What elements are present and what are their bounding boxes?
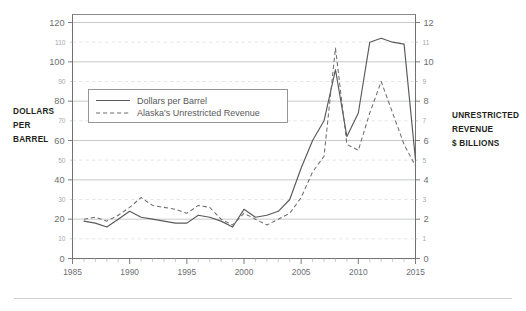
y-left-ticklabel-80: 80 xyxy=(54,96,64,106)
legend-label-dollars-per-barrel: Dollars per Barrel xyxy=(137,96,207,106)
series-dollars-per-barrel xyxy=(84,38,416,227)
y-right-ticklabel-6: 6 xyxy=(424,136,429,146)
chart-figure: 0204060801001201030507090110 02468101213… xyxy=(0,0,526,311)
chart-canvas: 0204060801001201030507090110 02468101213… xyxy=(0,0,526,311)
y-right-ticklabel-8: 8 xyxy=(424,96,429,106)
y-axis-right-ticks: 0246810121357911 xyxy=(416,18,434,264)
y-right-ticklabel-2: 2 xyxy=(424,214,429,224)
y-left-ticklabel-50: 50 xyxy=(58,157,66,164)
y-left-ticklabel-60: 60 xyxy=(54,136,64,146)
y-right-ticklabel-0: 0 xyxy=(424,254,429,264)
x-ticklabel-2015: 2015 xyxy=(406,267,425,277)
x-ticklabel-1995: 1995 xyxy=(178,267,197,277)
y-left-ticklabel-110: 110 xyxy=(55,39,66,46)
data-series-group xyxy=(84,38,416,227)
y-axis-right-title: UNRESTRICTED REVENUE $ BILLIONS xyxy=(452,111,519,148)
y-left-ticklabel-100: 100 xyxy=(49,57,64,67)
y-left-ticklabel-0: 0 xyxy=(59,254,64,264)
x-ticklabel-2010: 2010 xyxy=(349,267,368,277)
y-right-ticklabel-1: 1 xyxy=(423,235,427,242)
y-right-ticklabel-3: 3 xyxy=(423,196,427,203)
y-axis-left-title: DOLLARS PER BARREL xyxy=(13,107,55,144)
y-left-ticklabel-40: 40 xyxy=(54,175,64,185)
y-left-ticklabel-120: 120 xyxy=(49,18,64,28)
y-right-ticklabel-4: 4 xyxy=(424,175,429,185)
x-ticklabel-2005: 2005 xyxy=(292,267,311,277)
x-axis-ticks: 1985199019952000200520102015 xyxy=(63,259,425,277)
y-left-ticklabel-70: 70 xyxy=(58,117,66,124)
y-left-ticklabel-20: 20 xyxy=(54,214,64,224)
y-right-ticklabel-9: 9 xyxy=(423,78,427,85)
y-axis-right-title-line-3: $ BILLIONS xyxy=(452,139,500,148)
y-left-ticklabel-10: 10 xyxy=(58,235,66,242)
y-axis-right-title-line-2: REVENUE xyxy=(452,125,494,134)
y-right-ticklabel-12: 12 xyxy=(424,18,434,28)
y-left-ticklabel-30: 30 xyxy=(58,196,66,203)
y-right-ticklabel-7: 7 xyxy=(423,117,427,124)
y-left-ticklabel-90: 90 xyxy=(58,78,66,85)
y-axis-left-title-line-3: BARREL xyxy=(13,135,49,144)
y-right-ticklabel-5: 5 xyxy=(423,157,427,164)
y-axis-left-title-line-2: PER xyxy=(13,121,31,130)
y-right-ticklabel-11: 11 xyxy=(423,39,430,46)
series-alaska-unrestricted-revenue xyxy=(84,48,416,225)
chart-legend: Dollars per Barrel Alaska's Unrestricted… xyxy=(89,90,288,123)
y-right-ticklabel-10: 10 xyxy=(424,57,434,67)
plot-frame xyxy=(73,15,416,259)
legend-label-alaska-unrestricted-revenue: Alaska's Unrestricted Revenue xyxy=(137,108,260,118)
y-axis-right-title-line-1: UNRESTRICTED xyxy=(452,111,519,120)
x-ticklabel-2000: 2000 xyxy=(235,267,254,277)
y-axis-left-ticks: 0204060801001201030507090110 xyxy=(49,18,72,264)
x-ticklabel-1990: 1990 xyxy=(120,267,139,277)
x-ticklabel-1985: 1985 xyxy=(63,267,82,277)
y-axis-left-title-line-1: DOLLARS xyxy=(13,107,55,116)
